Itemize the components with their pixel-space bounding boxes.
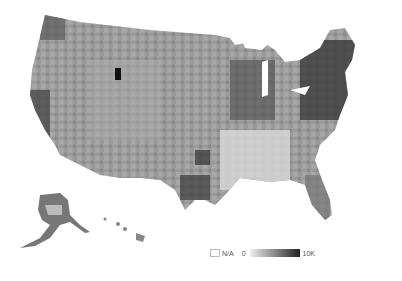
min-label: 0 [242, 250, 246, 257]
lake-michigan [262, 60, 268, 97]
color-gradient [250, 249, 300, 257]
na-label: N/A [222, 250, 234, 257]
na-swatch [210, 249, 220, 257]
map-legend: N/A 0 10K [210, 247, 315, 259]
contiguous-us[interactable] [25, 10, 365, 225]
max-label: 10K [303, 250, 315, 257]
us-county-map[interactable] [0, 0, 402, 281]
alaska[interactable] [20, 193, 90, 248]
hawaii[interactable] [104, 218, 146, 243]
